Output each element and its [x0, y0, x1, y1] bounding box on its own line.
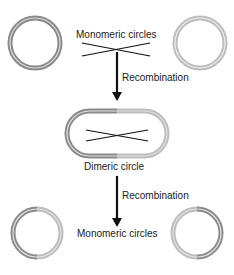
dimeric-label: Dimeric circle — [84, 161, 144, 172]
bottom-monomeric-label: Monomeric circles — [77, 228, 158, 239]
top-right-monomer-circle — [175, 18, 225, 68]
top-left-monomer-circle — [10, 18, 60, 68]
arrow-down-1 — [112, 52, 122, 101]
top-monomeric-label: Monomeric circles — [76, 29, 157, 40]
arrow-down-2 — [112, 176, 122, 227]
bottom-right-monomer-circle — [173, 209, 221, 257]
bottom-left-monomer-circle — [13, 209, 61, 257]
recombination-label-1: Recombination — [122, 72, 189, 83]
dimeric-circle — [67, 111, 167, 156]
dimer-crossover-x — [86, 130, 148, 141]
recombination-label-2: Recombination — [122, 190, 189, 201]
